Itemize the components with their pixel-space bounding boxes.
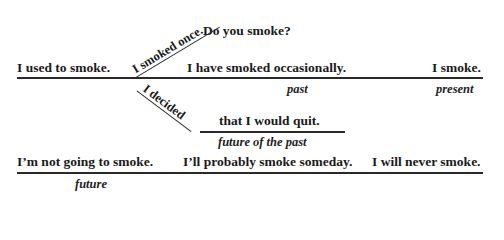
branch-i-decided: I decided <box>136 80 199 132</box>
sentence-used-to-smoke: I used to smoke. <box>17 61 110 75</box>
sentence-probably-smoke-someday: I’ll probably smoke someday. <box>183 155 352 169</box>
sub-timeline-line <box>200 131 345 133</box>
sentence-would-quit: that I would quit. <box>219 114 320 128</box>
sentence-have-smoked-occasionally: I have smoked occasionally. <box>187 61 346 75</box>
label-present: present <box>436 83 474 96</box>
label-future-of-the-past: future of the past <box>218 136 307 149</box>
sentence-i-smoke: I smoke. <box>432 61 481 75</box>
label-future: future <box>75 178 107 191</box>
sentence-will-never-smoke: I will never smoke. <box>372 155 481 169</box>
future-timeline-line <box>17 172 483 174</box>
sentence-not-going-to-smoke: I’m not going to smoke. <box>17 155 153 169</box>
label-past: past <box>287 83 308 96</box>
main-timeline-line <box>17 77 483 79</box>
branch-i-decided-text: I decided <box>137 80 199 131</box>
